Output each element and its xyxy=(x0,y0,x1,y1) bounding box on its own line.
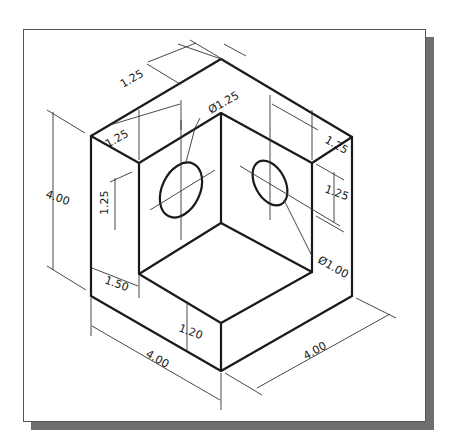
dim-hole-right-diameter: Ø1.00 xyxy=(316,253,351,281)
dim-base-height: 1.20 xyxy=(177,322,204,343)
hole-right xyxy=(240,140,340,226)
isometric-part-drawing: 1.25 1.25 1.25 Ø1.25 Ø1.00 4.00 1.25 1.2… xyxy=(0,0,456,445)
dim-base-step-width: 1.50 xyxy=(103,274,130,295)
drawing-stage: 1.25 1.25 1.25 Ø1.25 Ø1.00 4.00 1.25 1.2… xyxy=(0,0,456,445)
dim-hole-left-diameter: Ø1.25 xyxy=(206,89,241,117)
dim-overall-height: 4.00 xyxy=(44,188,71,209)
hole-left xyxy=(150,120,215,240)
dim-top-left-wall: 1.25 xyxy=(103,127,131,151)
dim-left-hole-offset: 1.25 xyxy=(98,191,111,216)
dim-right-hole-offset: 1.25 xyxy=(323,183,350,204)
dim-front-left-length: 4.00 xyxy=(144,347,172,371)
dim-top-back-width: 1.25 xyxy=(118,67,146,91)
dim-front-right-length: 4.00 xyxy=(301,339,329,363)
